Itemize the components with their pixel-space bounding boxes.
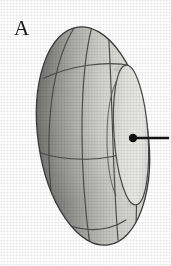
figure-panel: A	[0, 0, 171, 266]
ellipsoid-diagram	[0, 0, 171, 266]
marker-dot-icon	[129, 134, 137, 142]
